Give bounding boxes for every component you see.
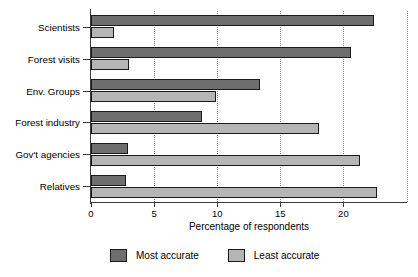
x-tick-mark xyxy=(343,202,344,207)
bar xyxy=(91,123,319,134)
bar xyxy=(91,15,374,26)
chart-legend: Most accurateLeast accurate xyxy=(110,249,319,262)
legend-item: Least accurate xyxy=(228,249,320,262)
gridline xyxy=(280,11,281,202)
x-tick-label: 15 xyxy=(275,208,286,219)
y-tick-mark xyxy=(83,91,91,92)
legend-label: Least accurate xyxy=(254,250,320,261)
y-category-label: Env. Groups xyxy=(26,85,80,96)
legend-item: Most accurate xyxy=(110,249,199,262)
y-category-label: Scientists xyxy=(38,21,80,32)
plot-area xyxy=(91,11,407,202)
bar xyxy=(91,27,114,38)
x-tick-mark xyxy=(91,202,92,207)
gridline xyxy=(154,11,155,202)
x-tick-mark xyxy=(280,202,281,207)
x-tick-label: 0 xyxy=(88,208,93,219)
y-tick-mark xyxy=(83,27,91,28)
gridline xyxy=(407,11,408,202)
legend-swatch xyxy=(110,249,127,262)
y-tick-mark xyxy=(83,154,91,155)
y-category-label: Forest industry xyxy=(15,117,80,128)
bar xyxy=(91,187,377,198)
legend-swatch xyxy=(228,249,245,262)
y-category-label: Forest visits xyxy=(28,53,80,64)
bar xyxy=(91,91,216,102)
bar xyxy=(91,59,129,70)
x-axis-line xyxy=(91,202,407,203)
y-category-label: Relatives xyxy=(40,181,80,192)
x-axis-title: Percentage of respondents xyxy=(91,221,407,232)
x-tick-label: 5 xyxy=(151,208,156,219)
bar-chart-figure: 05101520 ScientistsForest visitsEnv. Gro… xyxy=(0,0,418,277)
y-tick-mark xyxy=(83,59,91,60)
legend-label: Most accurate xyxy=(136,250,199,261)
x-tick-mark xyxy=(217,202,218,207)
y-tick-mark xyxy=(83,186,91,187)
x-tick-label: 10 xyxy=(212,208,223,219)
x-tick-mark xyxy=(154,202,155,207)
bar xyxy=(91,111,202,122)
bar xyxy=(91,143,128,154)
bar xyxy=(91,175,126,186)
bar xyxy=(91,155,360,166)
y-tick-mark xyxy=(83,122,91,123)
gridline xyxy=(343,11,344,202)
y-category-label: Gov't agencies xyxy=(16,149,81,160)
gridline xyxy=(217,11,218,202)
bar xyxy=(91,47,351,58)
x-tick-label: 20 xyxy=(338,208,349,219)
bar xyxy=(91,79,260,90)
